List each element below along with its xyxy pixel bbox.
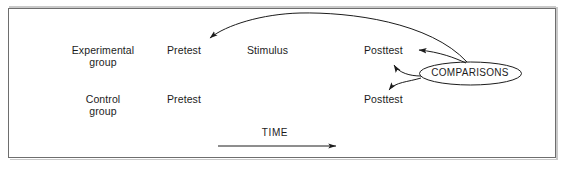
figure-canvas: Experimental group Pretest Stimulus Post… xyxy=(0,0,565,169)
control-group-label-line2: group xyxy=(86,105,121,117)
control-group-label: Control group xyxy=(86,93,121,117)
arrow-comparisons-to-experimental-posttest xyxy=(419,50,466,63)
control-group-label-line1: Control xyxy=(86,93,121,105)
time-axis-label: TIME xyxy=(262,127,288,139)
experimental-stimulus-label: Stimulus xyxy=(247,44,288,56)
control-posttest-label: Posttest xyxy=(364,93,403,105)
diagram-arrows xyxy=(0,0,565,169)
control-pretest-label: Pretest xyxy=(167,93,201,105)
comparisons-label: COMPARISONS xyxy=(431,67,509,79)
experimental-group-label-line2: group xyxy=(72,56,134,68)
experimental-group-label-line1: Experimental xyxy=(72,44,134,56)
arrow-comparisons-to-experimental-posttest-short xyxy=(394,65,421,76)
experimental-posttest-label: Posttest xyxy=(364,44,403,56)
arrow-comparisons-to-control-posttest xyxy=(389,78,421,90)
experimental-pretest-label: Pretest xyxy=(167,44,201,56)
experimental-group-label: Experimental group xyxy=(72,44,134,68)
